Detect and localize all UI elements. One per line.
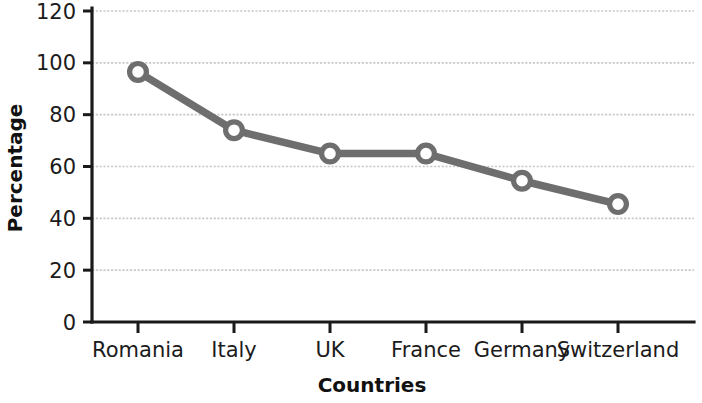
x-tick-label-romania: Romania xyxy=(92,338,184,362)
chart-canvas: 020406080100120 RomaniaItalyUKFranceGerm… xyxy=(0,0,702,403)
data-point-germany xyxy=(514,172,531,189)
line-chart-figure: 020406080100120 RomaniaItalyUKFranceGerm… xyxy=(0,0,702,403)
y-tick-label-80: 80 xyxy=(49,103,76,127)
x-tick-label-uk: UK xyxy=(315,338,345,362)
y-tick-label-60: 60 xyxy=(49,155,76,179)
y-tick-label-0: 0 xyxy=(63,311,76,335)
y-tick-label-40: 40 xyxy=(49,207,76,231)
data-point-romania xyxy=(130,64,147,81)
y-axis-title: Percentage xyxy=(3,104,27,233)
y-tick-label-20: 20 xyxy=(49,259,76,283)
data-point-france xyxy=(418,145,435,162)
x-axis-title: Countries xyxy=(318,373,427,397)
data-point-uk xyxy=(322,145,339,162)
y-tick-label-120: 120 xyxy=(36,0,76,24)
y-tick-label-100: 100 xyxy=(36,51,76,75)
x-tick-label-france: France xyxy=(391,338,461,362)
data-point-switzerland xyxy=(610,196,627,213)
x-tick-label-italy: Italy xyxy=(211,338,257,362)
x-tick-label-switzerland: Switzerland xyxy=(557,338,680,362)
data-point-italy xyxy=(226,122,243,139)
